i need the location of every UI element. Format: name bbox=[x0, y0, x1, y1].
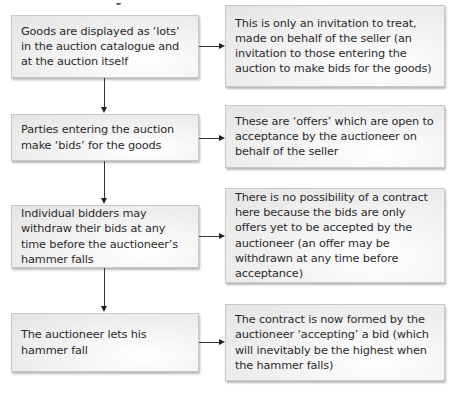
connector-line-1-2 bbox=[104, 78, 105, 108]
explanation-text-3: There is no possibility of a contract he… bbox=[235, 190, 436, 281]
explanation-text-2: These are ‘offers’ which are open to acc… bbox=[235, 114, 436, 160]
connector-line-2-right bbox=[199, 138, 219, 139]
connector-line-4-right bbox=[199, 342, 219, 343]
explanation-text-4: The contract is now formed by the auctio… bbox=[235, 312, 436, 373]
connector-line-1-right bbox=[199, 46, 219, 47]
step-box-2: Parties entering the auction make ‘bids’… bbox=[11, 114, 199, 161]
explanation-box-4: The contract is now formed by the auctio… bbox=[225, 304, 445, 381]
step-box-3: Individual bidders may withdraw their bi… bbox=[11, 205, 199, 268]
arrow-right-icon bbox=[219, 233, 225, 239]
arrow-down-icon bbox=[101, 306, 107, 312]
step-box-1: Goods are displayed as ‘lots’ in the auc… bbox=[11, 15, 199, 78]
step-box-4: The auctioneer lets his hammer fall bbox=[11, 313, 199, 372]
clipped-title-fragment bbox=[116, 0, 121, 5]
explanation-text-1: This is only an invitation to treat, mad… bbox=[235, 16, 436, 77]
connector-line-3-4 bbox=[104, 268, 105, 306]
connector-line-2-3 bbox=[104, 161, 105, 199]
step-text-2: Parties entering the auction make ‘bids’… bbox=[21, 122, 190, 152]
step-text-4: The auctioneer lets his hammer fall bbox=[21, 327, 190, 357]
arrow-right-icon bbox=[219, 135, 225, 141]
arrow-down-icon bbox=[101, 198, 107, 204]
step-text-3: Individual bidders may withdraw their bi… bbox=[21, 206, 190, 267]
arrow-down-icon bbox=[101, 107, 107, 113]
explanation-box-1: This is only an invitation to treat, mad… bbox=[225, 5, 445, 87]
connector-line-3-right bbox=[199, 236, 219, 237]
explanation-box-3: There is no possibility of a contract he… bbox=[225, 188, 445, 283]
arrow-right-icon bbox=[219, 43, 225, 49]
explanation-box-2: These are ‘offers’ which are open to acc… bbox=[225, 105, 445, 168]
step-text-1: Goods are displayed as ‘lots’ in the auc… bbox=[21, 24, 190, 70]
arrow-right-icon bbox=[219, 339, 225, 345]
